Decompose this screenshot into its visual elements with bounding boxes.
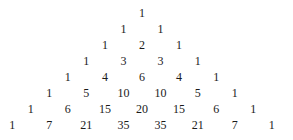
triangle-entry: 4 xyxy=(176,71,182,83)
triangle-entry: 1 xyxy=(269,119,275,131)
triangle-entry: 10 xyxy=(155,87,167,99)
triangle-entry: 1 xyxy=(176,39,182,51)
triangle-entry: 1 xyxy=(195,55,201,67)
triangle-entry: 6 xyxy=(139,71,145,83)
triangle-entry: 1 xyxy=(83,55,89,67)
triangle-entry: 6 xyxy=(65,103,71,115)
triangle-entry: 1 xyxy=(139,7,145,19)
triangle-entry: 3 xyxy=(120,55,126,67)
triangle-entry: 21 xyxy=(80,119,92,131)
pascal-triangle: 1111211331146411510105116152015611721353… xyxy=(0,0,293,140)
triangle-entry: 1 xyxy=(250,103,256,115)
triangle-entry: 1 xyxy=(213,71,219,83)
triangle-entry: 2 xyxy=(139,39,145,51)
triangle-entry: 7 xyxy=(46,119,52,131)
triangle-entry: 1 xyxy=(120,23,126,35)
triangle-entry: 35 xyxy=(117,119,129,131)
triangle-entry: 7 xyxy=(232,119,238,131)
triangle-entry: 5 xyxy=(195,87,201,99)
triangle-entry: 1 xyxy=(28,103,34,115)
triangle-entry: 15 xyxy=(99,103,111,115)
triangle-entry: 15 xyxy=(173,103,185,115)
triangle-entry: 35 xyxy=(155,119,167,131)
triangle-entry: 10 xyxy=(117,87,129,99)
triangle-entry: 20 xyxy=(136,103,148,115)
triangle-entry: 4 xyxy=(102,71,108,83)
triangle-entry: 5 xyxy=(83,87,89,99)
triangle-entry: 1 xyxy=(9,119,15,131)
triangle-entry: 3 xyxy=(158,55,164,67)
triangle-entry: 1 xyxy=(232,87,238,99)
triangle-entry: 1 xyxy=(158,23,164,35)
triangle-entry: 6 xyxy=(213,103,219,115)
triangle-entry: 1 xyxy=(65,71,71,83)
triangle-entry: 21 xyxy=(192,119,204,131)
triangle-entry: 1 xyxy=(46,87,52,99)
triangle-entry: 1 xyxy=(102,39,108,51)
